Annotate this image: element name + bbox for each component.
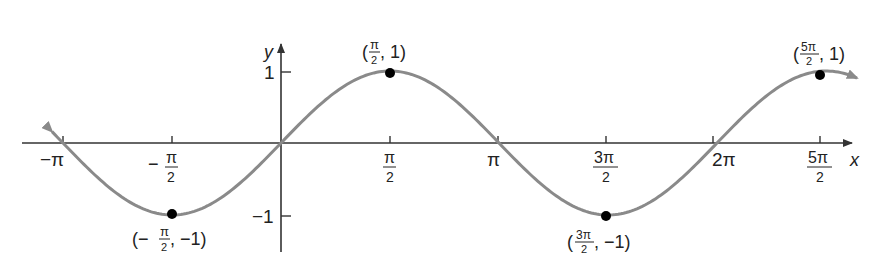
annotation-pi-over-2: ( π 2 , 1) (362, 37, 406, 66)
tick-label-3pi-over-2: 3π 2 (593, 149, 618, 185)
y-axis-label: y (262, 42, 274, 62)
svg-text:−: − (148, 154, 159, 174)
svg-text:5π: 5π (801, 40, 816, 54)
annotation-3pi-over-2: ( 3π 2 , −1) (567, 228, 631, 255)
sine-graph: x y −π − π 2 π 2 π 3π 2 2π 5π 2 (0, 0, 877, 270)
svg-text:2: 2 (161, 241, 167, 253)
tick-label-neg-pi-over-2: − π 2 (148, 149, 178, 185)
svg-text:2: 2 (581, 243, 587, 255)
point-min-3pi-over-2 (601, 211, 611, 221)
tick-label-y-neg-1: −1 (252, 206, 274, 227)
svg-text:2: 2 (371, 54, 377, 66)
x-axis-label: x (849, 150, 860, 170)
svg-text:, 1): , 1) (819, 44, 845, 64)
svg-text:(: ( (567, 232, 573, 252)
svg-text:, −1): , −1) (170, 229, 207, 249)
annotation-neg-pi-over-2: (− π 2 , −1) (132, 224, 207, 253)
svg-text:3π: 3π (576, 228, 591, 242)
y-ticks (281, 72, 291, 216)
svg-text:(: ( (362, 42, 368, 62)
x-ticks (63, 136, 820, 143)
svg-text:2: 2 (806, 55, 812, 67)
svg-text:, 1): , 1) (380, 42, 406, 62)
tick-label-neg-pi: −π (40, 149, 64, 170)
tick-label-5pi-over-2: 5π 2 (807, 149, 832, 185)
svg-text:(: ( (793, 44, 799, 64)
svg-text:3π: 3π (594, 149, 614, 166)
annotation-5pi-over-2: ( 5π 2 , 1) (793, 40, 845, 67)
tick-label-2pi: 2π (712, 149, 736, 170)
point-max-5pi-over-2 (815, 70, 825, 80)
svg-text:2: 2 (602, 169, 610, 185)
svg-text:(−: (− (132, 229, 149, 249)
point-min-neg-pi-over-2 (167, 209, 177, 219)
svg-text:, −1): , −1) (594, 232, 631, 252)
svg-text:π: π (166, 149, 177, 166)
svg-text:π: π (370, 37, 379, 52)
tick-label-y-1: 1 (264, 62, 275, 83)
svg-text:π: π (384, 149, 395, 166)
point-max-pi-over-2 (385, 68, 395, 78)
tick-label-pi: π (487, 149, 500, 170)
svg-text:2: 2 (167, 169, 175, 185)
key-points (167, 68, 825, 221)
svg-text:2: 2 (816, 169, 824, 185)
tick-label-pi-over-2: π 2 (383, 149, 396, 185)
svg-text:2: 2 (386, 169, 394, 185)
svg-text:5π: 5π (808, 149, 828, 166)
svg-text:π: π (160, 224, 169, 239)
